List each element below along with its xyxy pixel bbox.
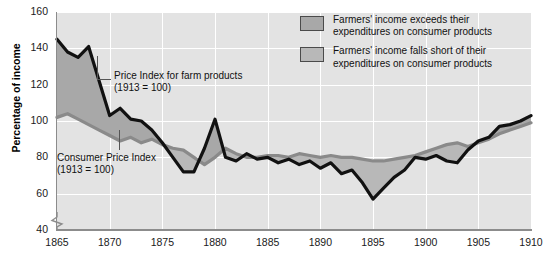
x-tick-label: 1880 [193,236,237,248]
x-tick-label: 1870 [88,236,132,248]
y-axis-line [56,12,57,230]
legend-item-income-exceeds: Farmers' income exceeds their expenditur… [300,14,532,38]
annotation-leader-cpi [119,130,120,150]
annotation-line-1: Consumer Price Index [57,152,156,163]
legend-item-income-falls-short: Farmers' income falls short of their exp… [300,45,532,69]
legend-swatch-income-falls-short [300,47,324,62]
legend-line-2: expenditures on consumer products [333,58,492,69]
y-tick-label: 160 [8,5,48,17]
y-tick-label: 60 [8,187,48,199]
legend-line-1: Farmers' income falls short of their [333,45,486,56]
x-tick-label: 1900 [404,236,448,248]
legend-label-income-falls-short: Farmers' income falls short of their exp… [333,45,492,69]
legend: Farmers' income exceeds their expenditur… [300,14,532,77]
x-tick-label: 1890 [298,236,342,248]
y-tick-label: 40 [8,223,48,235]
legend-label-income-exceeds: Farmers' income exceeds their expenditur… [333,14,492,38]
annotation-farm-price-index: Price Index for farm products (1913 = 10… [114,70,242,95]
x-tick-label: 1895 [351,236,395,248]
annotation-leader-farm-stem [97,56,98,80]
annotation-line-2: (1913 = 100) [114,82,171,93]
legend-line-1: Farmers' income exceeds their [333,14,469,25]
x-tick-label: 1865 [35,236,79,248]
x-tick-label: 1885 [246,236,290,248]
x-tick-label: 1905 [456,236,500,248]
legend-swatch-income-exceeds [300,16,324,31]
annotation-leader-farm [97,79,111,80]
annotation-line-2: (1913 = 100) [57,164,114,175]
x-tick-label: 1875 [140,236,184,248]
annotation-consumer-price-index: Consumer Price Index (1913 = 100) [57,152,156,177]
y-axis-title: Percentage of income [10,28,22,168]
x-tick-label: 1910 [509,236,547,248]
legend-line-2: expenditures on consumer products [333,26,492,37]
axis-break-icon [50,212,66,230]
annotation-line-1: Price Index for farm products [114,70,242,81]
x-axis-line [56,229,532,231]
